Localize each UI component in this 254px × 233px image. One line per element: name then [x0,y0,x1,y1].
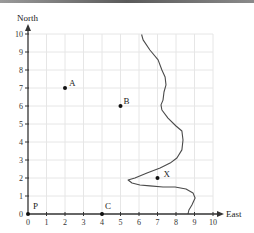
x-axis-label: East [226,209,242,219]
y-tick-label: 5 [19,120,23,129]
x-tick-label: 1 [45,218,49,227]
grid-lines [28,34,213,214]
y-tick-label: 10 [15,30,23,39]
point-c [100,212,104,216]
y-tick-label: 6 [19,102,23,111]
x-tick-label: 10 [209,218,217,227]
x-axis-arrow-icon [217,211,224,217]
y-tick-label: 2 [19,174,23,183]
y-tick-label: 8 [19,66,23,75]
x-tick-label: 0 [26,218,30,227]
x-tick-label: 3 [82,218,86,227]
x-tick-label: 6 [137,218,141,227]
x-tick-label: 5 [119,218,123,227]
x-tick-label: 2 [63,218,67,227]
x-tick-label: 8 [174,218,178,227]
y-tick-label: 0 [19,210,23,219]
coordinate-plot: East North 012345678910012345678910 ABXP… [0,0,254,233]
point-label-x: X [164,169,171,179]
x-tick-label: 9 [193,218,197,227]
y-tick-label: 1 [19,192,23,201]
y-axis-arrow-icon [25,24,31,31]
y-tick-label: 4 [19,138,23,147]
x-tick-label: 4 [100,218,104,227]
point-b [119,104,123,108]
point-label-c: C [105,201,111,211]
point-x [156,176,160,180]
y-axis-label: North [17,13,38,23]
point-label-p: P [33,201,38,211]
labelled-points: ABXPC [26,78,171,216]
x-tick-label: 7 [156,218,160,227]
point-label-b: B [124,96,130,106]
y-tick-label: 9 [19,48,23,57]
y-tick-label: 3 [19,156,23,165]
tick-labels: 012345678910012345678910 [15,30,217,227]
point-label-a: A [69,78,76,88]
y-tick-label: 7 [19,84,23,93]
axes: East North [17,13,242,219]
point-a [63,86,67,90]
point-p [26,212,30,216]
